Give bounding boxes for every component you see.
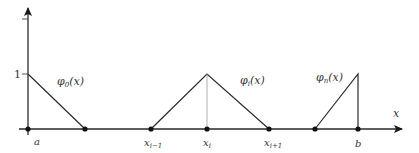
node-dot-xnm1: [312, 126, 317, 131]
phii-label: φi(x): [240, 74, 265, 88]
node-dot-a: [25, 126, 30, 131]
phin-label: φn(x): [316, 71, 343, 85]
phi0-label: φ0(x): [57, 75, 84, 89]
node-label-b: b: [355, 138, 361, 149]
node-dot-xip1: [266, 126, 271, 131]
node-label-xi: xi: [203, 137, 211, 150]
node-dot-b: [355, 126, 360, 131]
node-dot-xi: [204, 126, 209, 131]
node-label-xip1: xi+1: [264, 137, 282, 150]
y-tick-label-one: 1: [14, 68, 21, 81]
node-label-xim1: xi−1: [144, 137, 162, 150]
node-dot-xim1: [148, 126, 153, 131]
x-axis-label: x: [393, 107, 400, 120]
node-dot-x1: [82, 126, 87, 131]
node-label-a: a: [34, 136, 40, 147]
diagram-canvas: 1 a xi−1 xi xi+1 b x φ0(x) φi(x) φn(x): [0, 0, 419, 153]
